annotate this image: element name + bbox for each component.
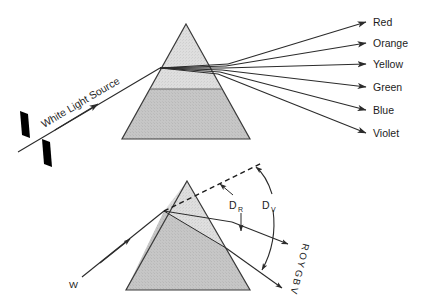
- slit-bar-lower: [42, 139, 52, 167]
- ray-yellow: [224, 64, 366, 68]
- top-diagram-group: Red Orange Yellow Green Blue Violet Whit…: [18, 16, 408, 167]
- svg-text:Y: Y: [295, 260, 307, 269]
- top-prism-upper-face: [150, 24, 222, 89]
- svg-text:V: V: [271, 206, 276, 213]
- label-incident-w: W: [69, 279, 78, 290]
- svg-text:B: B: [291, 277, 303, 286]
- ray-red: [228, 22, 366, 64]
- label-blue: Blue: [373, 104, 394, 116]
- svg-text:V: V: [288, 286, 300, 295]
- top-prism-lower-face: [122, 89, 250, 139]
- slit-bar-upper: [20, 111, 30, 138]
- prism-dispersion-figure: Red Orange Yellow Green Blue Violet Whit…: [0, 0, 430, 306]
- label-orange: Orange: [373, 37, 408, 49]
- angle-dv-upper-arc: [256, 167, 272, 194]
- svg-text:R: R: [299, 243, 311, 252]
- label-red: Red: [373, 16, 392, 28]
- ray-orange: [226, 43, 366, 66]
- svg-text:R: R: [238, 206, 243, 213]
- label-green: Green: [373, 81, 402, 93]
- emergent-spectrum-rays: [218, 22, 366, 133]
- bottom-emergent-ray-red: [232, 222, 288, 244]
- bottom-incident-ray-arrow: [100, 239, 130, 263]
- angle-dv-label: D V: [262, 199, 276, 213]
- svg-text:D: D: [262, 199, 270, 211]
- label-yellow: Yellow: [373, 58, 403, 70]
- label-white-light-source: White Light Source: [39, 74, 122, 129]
- angle-dv-lower-arc: [262, 210, 274, 270]
- spectrum-stack-roygbv: R O Y G B V: [288, 243, 311, 296]
- dispersion-diagram-svg: Red Orange Yellow Green Blue Violet Whit…: [0, 0, 430, 306]
- angle-dr-upper-pointer: [220, 184, 233, 195]
- label-violet: Violet: [373, 127, 399, 139]
- bottom-diagram-group: W D R D V R: [69, 163, 312, 296]
- angle-dr-label: D R: [229, 199, 243, 213]
- svg-text:D: D: [229, 199, 237, 211]
